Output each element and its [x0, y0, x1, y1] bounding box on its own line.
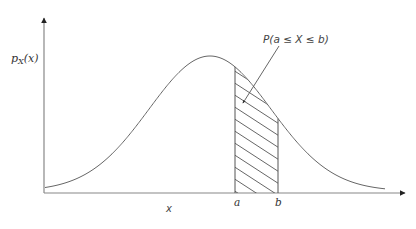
- area-label: P(a ≤ X ≤ b): [263, 33, 329, 45]
- x-axis-label: x: [165, 203, 172, 214]
- bound-b-label: b: [275, 196, 282, 208]
- bound-a-label: a: [234, 196, 240, 208]
- leader-line: [243, 46, 279, 103]
- y-axis-label: pX(x): [11, 52, 39, 66]
- density-curve: [45, 56, 385, 189]
- diagram-canvas: pX(x) P(a ≤ X ≤ b) x a b: [0, 0, 416, 229]
